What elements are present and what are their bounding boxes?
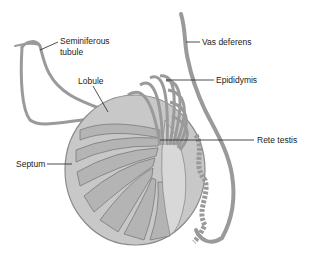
label-seminiferous-tubule-1: Seminiferous <box>60 36 110 46</box>
label-rete-testis: Rete testis <box>257 135 297 145</box>
testis-diagram <box>0 0 318 254</box>
label-seminiferous-tubule-2: tubule <box>60 47 83 57</box>
label-epididymis: Epididymis <box>216 75 257 85</box>
label-septum: Septum <box>16 159 45 169</box>
label-lobule: Lobule <box>78 76 104 86</box>
label-vas-deferens: Vas deferens <box>202 37 251 47</box>
